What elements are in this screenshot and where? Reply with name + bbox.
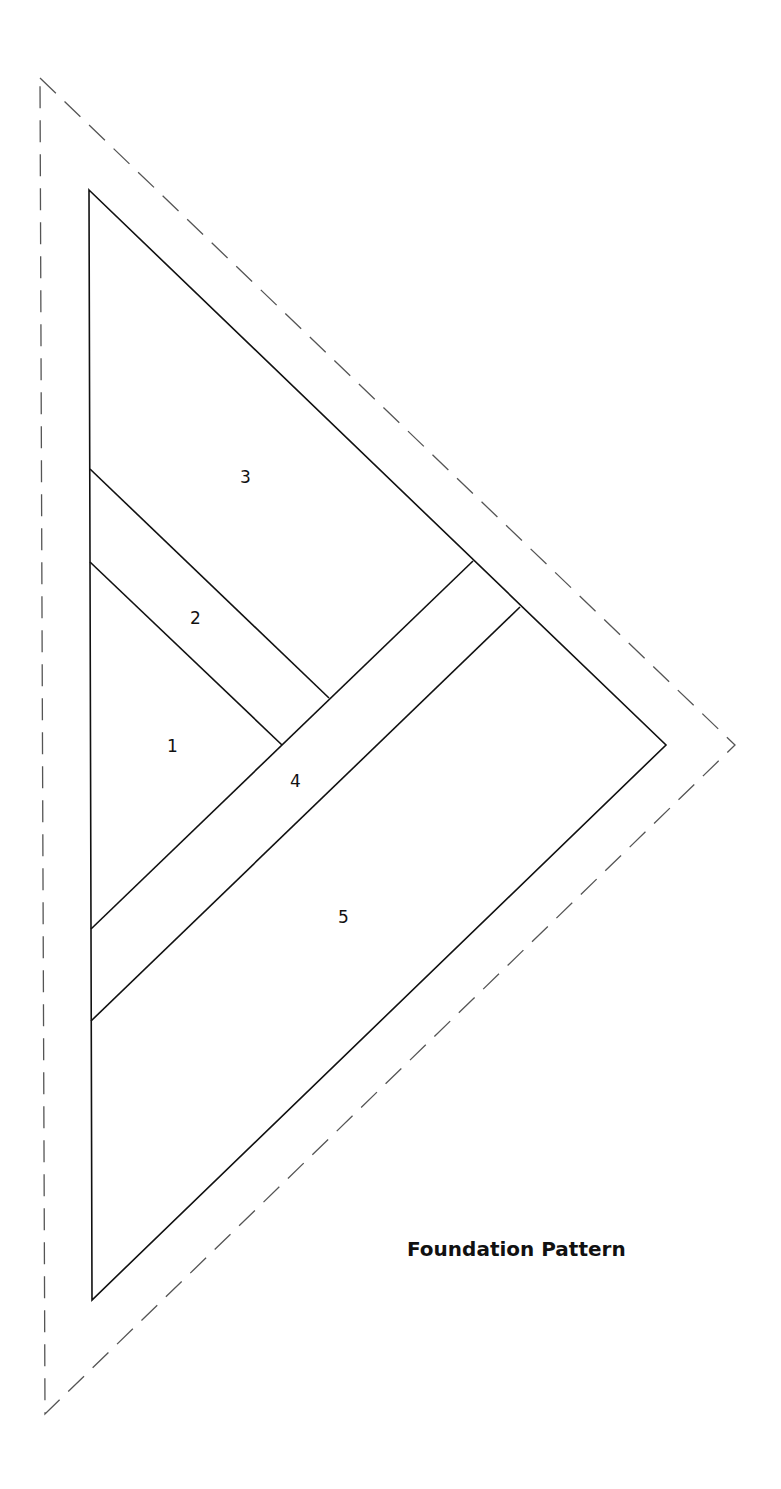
seam-line-1-2 <box>90 562 282 745</box>
seam-line-4-5 <box>91 607 520 1021</box>
pattern-diagram: 3 2 1 4 5 <box>0 0 781 1489</box>
seam-line-upper-4 <box>91 561 473 929</box>
seam-line-2-3 <box>90 469 329 698</box>
piece-label-1: 1 <box>167 736 178 756</box>
piece-label-2: 2 <box>190 608 201 628</box>
seam-allowance-outline <box>40 78 735 1414</box>
pattern-title: Foundation Pattern <box>407 1237 626 1261</box>
foundation-pattern-page: 3 2 1 4 5 Foundation Pattern <box>0 0 781 1489</box>
piece-label-3: 3 <box>240 467 251 487</box>
piece-label-5: 5 <box>338 907 349 927</box>
piece-label-4: 4 <box>290 771 301 791</box>
